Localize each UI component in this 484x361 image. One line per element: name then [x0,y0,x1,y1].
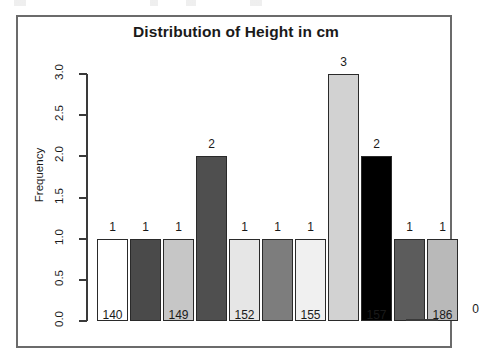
y-axis-tick [79,197,87,199]
x-axis-tick-label: 149 [149,308,209,322]
bar-value-label: 1 [423,220,463,234]
bar-value-label: 1 [291,220,331,234]
x-axis-tick-label: 155 [281,308,341,322]
bar [196,156,227,321]
y-axis-tick [79,114,87,116]
y-axis-tick-label: 1.5 [53,179,65,213]
x-axis-tick-label: 186 [413,308,473,322]
bar-value-label: 1 [159,220,199,234]
y-axis-tick-label: 2.0 [53,137,65,171]
y-axis-tick-label: 0.0 [53,302,65,336]
y-axis-tick [79,73,87,75]
y-axis-tick-label: 3.0 [53,55,65,89]
x-axis-tick-label: 157 [347,308,407,322]
y-axis-tick [79,279,87,281]
y-axis-tick-label: 2.5 [53,96,65,130]
bar-value-label: 2 [357,137,397,151]
y-axis-tick-label: 0.5 [53,261,65,295]
y-axis-tick [79,155,87,157]
y-axis-tick-label: 1.0 [53,220,65,254]
y-axis-tick [79,238,87,240]
chart-frame: Distribution of Height in cm Frequency 0… [16,15,452,348]
x-axis-tick-label: 152 [215,308,275,322]
bar-value-label: 2 [192,137,232,151]
bar [328,74,359,321]
bar-value-label: 3 [324,55,364,69]
plot-area: 0.00.51.01.52.02.53.0 111211132110 14014… [18,17,454,350]
x-axis-tick-label: 140 [83,308,143,322]
scan-artifact-strip [0,0,466,6]
bar [361,156,392,321]
